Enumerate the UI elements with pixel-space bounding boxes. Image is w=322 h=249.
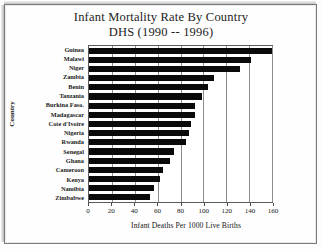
y-axis-tick-label: Burkina Faso. bbox=[20, 102, 86, 108]
bar bbox=[89, 139, 186, 145]
x-axis-tick-mark bbox=[134, 203, 135, 206]
chart-title: Infant Mortality Rate By Country bbox=[0, 10, 322, 25]
x-axis-tick-mark bbox=[227, 203, 228, 206]
bar bbox=[89, 66, 240, 72]
y-axis-tick-labels: GuineaMalawiNigerZambiaBeninTanzaniaBurk… bbox=[20, 45, 86, 203]
bar bbox=[89, 167, 163, 173]
x-axis-tick-mark bbox=[250, 203, 251, 206]
x-axis-tick-label: 100 bbox=[198, 207, 209, 215]
x-axis-tick-mark bbox=[157, 203, 158, 206]
bar bbox=[89, 57, 251, 63]
y-axis-tick-label: Rwanda bbox=[20, 139, 86, 145]
y-axis-tick-label: Nigeria bbox=[20, 130, 86, 136]
bar bbox=[89, 48, 272, 54]
y-axis-tick-label: Zimbabwe bbox=[20, 195, 86, 201]
x-axis-tick-label: 160 bbox=[268, 207, 279, 215]
bar-row bbox=[89, 112, 272, 118]
bar-row bbox=[89, 93, 272, 99]
y-axis-label: Country bbox=[8, 91, 16, 137]
x-axis-label: Infant Deaths Per 1000 Live Births bbox=[60, 221, 312, 230]
x-axis-tick-label: 0 bbox=[86, 207, 90, 215]
bar-row bbox=[89, 57, 272, 63]
bar bbox=[89, 185, 154, 191]
x-axis-ticks: 020406080100120140160 bbox=[88, 203, 273, 207]
y-axis-tick-label: Cameroon bbox=[20, 167, 86, 173]
x-axis-tick-label: 60 bbox=[154, 207, 161, 215]
bar-series bbox=[89, 46, 272, 202]
bar-row bbox=[89, 185, 272, 191]
x-axis-tick-mark bbox=[111, 203, 112, 206]
y-axis-tick-label: Senegal bbox=[20, 149, 86, 155]
y-axis-tick-label: Namibia bbox=[20, 186, 86, 192]
bar-row bbox=[89, 130, 272, 136]
y-axis-tick-label: Guinea bbox=[20, 47, 86, 53]
x-axis-tick-mark bbox=[273, 203, 274, 206]
bar bbox=[89, 148, 174, 154]
bar bbox=[89, 194, 150, 200]
y-axis-tick-label: Kenya bbox=[20, 177, 86, 183]
bar bbox=[89, 130, 189, 136]
x-axis-tick-label: 80 bbox=[177, 207, 184, 215]
gridline bbox=[272, 46, 273, 202]
x-axis-tick-mark bbox=[204, 203, 205, 206]
x-axis-tick-label: 40 bbox=[131, 207, 138, 215]
y-axis-tick-label: Benin bbox=[20, 84, 86, 90]
bar-row bbox=[89, 139, 272, 145]
bar-row bbox=[89, 84, 272, 90]
bar bbox=[89, 112, 195, 118]
bar-row bbox=[89, 75, 272, 81]
chart-figure: Infant Mortality Rate By Country DHS (19… bbox=[0, 0, 322, 249]
bar bbox=[89, 176, 160, 182]
bar bbox=[89, 75, 214, 81]
bar-row bbox=[89, 158, 272, 164]
y-axis-tick-label: Cote d'Ivoire bbox=[20, 121, 86, 127]
bar-row bbox=[89, 66, 272, 72]
x-axis-tick-label: 120 bbox=[222, 207, 233, 215]
x-axis-tick-mark bbox=[88, 203, 89, 206]
y-axis-tick-label: Malawi bbox=[20, 56, 86, 62]
bar bbox=[89, 121, 191, 127]
bar bbox=[89, 103, 195, 109]
x-axis-tick-mark bbox=[181, 203, 182, 206]
chart-title-block: Infant Mortality Rate By Country DHS (19… bbox=[0, 10, 322, 40]
y-axis-tick-label: Niger bbox=[20, 65, 86, 71]
x-axis-tick-label: 20 bbox=[108, 207, 115, 215]
bar-row bbox=[89, 103, 272, 109]
bar-row bbox=[89, 194, 272, 200]
bar bbox=[89, 84, 208, 90]
x-axis-tick-label: 140 bbox=[245, 207, 256, 215]
bar-row bbox=[89, 148, 272, 154]
bar-row bbox=[89, 176, 272, 182]
bar bbox=[89, 93, 202, 99]
bar bbox=[89, 158, 170, 164]
bar-row bbox=[89, 48, 272, 54]
y-axis-tick-label: Tanzania bbox=[20, 93, 86, 99]
y-axis-tick-label: Ghana bbox=[20, 158, 86, 164]
bar-row bbox=[89, 167, 272, 173]
y-axis-tick-label: Zambia bbox=[20, 74, 86, 80]
plot-area bbox=[88, 45, 273, 203]
chart-subtitle: DHS (1990 -- 1996) bbox=[0, 25, 322, 40]
bar-row bbox=[89, 121, 272, 127]
y-axis-tick-label: Madagascar bbox=[20, 112, 86, 118]
